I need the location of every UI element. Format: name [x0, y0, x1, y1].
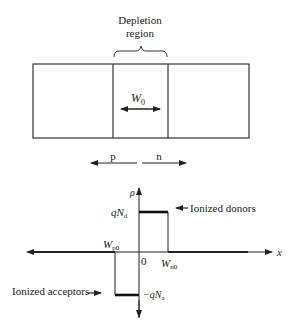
- rho-axis-label: ρ: [129, 187, 135, 198]
- depletion-label-line1: Depletion: [118, 14, 162, 26]
- donor-level-label: qNd: [111, 206, 128, 220]
- pn-junction-diagram: Depletion region W0 p n ρ x 0 Wp0 Wn0 qN…: [0, 0, 295, 331]
- depletion-label-line2: region: [126, 27, 155, 39]
- n-label: n: [156, 150, 162, 162]
- donors-annotation: Ionized donors: [190, 202, 256, 214]
- acceptor-charge-block: [115, 252, 139, 295]
- wn0-label: Wn0: [161, 257, 178, 271]
- acceptor-level-label: −qNa: [143, 289, 165, 302]
- donor-charge-block: [139, 212, 168, 252]
- x-axis-label: x: [276, 246, 282, 258]
- width-label: W0: [131, 91, 145, 107]
- origin-label: 0: [141, 255, 147, 267]
- depletion-brace: [114, 46, 167, 57]
- wp0-label: Wp0: [103, 238, 120, 252]
- p-label: p: [110, 150, 116, 162]
- acceptors-annotation: Ionized acceptors: [12, 285, 89, 297]
